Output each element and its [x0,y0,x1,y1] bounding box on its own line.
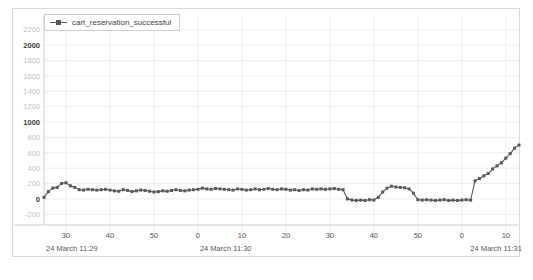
series-data-point [403,186,406,189]
series-data-point [311,187,314,190]
series-data-point [78,188,81,191]
series-data-point [100,188,103,191]
series-data-point [456,199,459,202]
series-data-point [245,189,248,192]
x-axis-tick-label: 30 [62,231,70,240]
series-data-point [170,189,173,192]
series-data-point [126,189,129,192]
series-data-point [425,198,428,201]
series-data-point [196,188,199,191]
series-data-point [372,199,375,202]
series-data-point [465,198,468,201]
series-data-point [390,185,393,188]
series-data-point [183,189,186,192]
series-data-point [262,188,265,191]
series-data-point [249,188,252,191]
series-data-point [267,187,270,190]
x-axis-period-label: 24 March 11:29 [46,244,98,253]
ytick-label-layer: 2200200018001600140012001000800600400200… [23,25,40,219]
series-data-point [355,199,358,202]
y-axis-tick-label: 400 [27,164,40,173]
series-data-point [214,187,217,190]
series-data-point [276,188,279,191]
y-axis-tick-label: 200 [27,179,40,188]
series-data-point [188,189,191,192]
series-data-point [69,184,72,187]
period-label-layer: 24 March 11:2924 March 11:3024 March 11:… [46,244,522,253]
x-axis-period-label: 24 March 11:30 [200,244,252,253]
series-data-point [394,186,397,189]
series-data-point [333,187,336,190]
series-data-point [82,189,85,192]
series-data-point [91,188,94,191]
x-axis-period-label: 24 March 11:31 [470,244,522,253]
series-data-point [381,191,384,194]
x-axis-tick-label: 10 [238,231,246,240]
chart-canvas: 2200200018001600140012001000800600400200… [0,0,533,280]
y-axis-tick-label: 2200 [23,25,40,34]
series-data-point [298,189,301,192]
series-data-point [258,188,261,191]
series-data-point [210,188,213,191]
series-data-point [399,186,402,189]
series-data-point [430,199,433,202]
series-data-point [443,198,446,201]
x-axis-tick-label: 50 [150,231,158,240]
x-axis-tick-label: 0 [196,231,200,240]
axis-layer [14,16,518,225]
series-data-point [148,190,151,193]
series-data-point [513,147,516,150]
series-data-point [113,189,116,192]
y-axis-tick-label: 800 [27,133,40,142]
series-data-point [408,187,411,190]
y-axis-tick-label: 1200 [23,102,40,111]
series-data-point [232,189,235,192]
legend-series-label: cart_reservation_successful [72,19,171,27]
chart-container: 2200200018001600140012001000800600400200… [0,0,533,280]
series-data-point [108,189,111,192]
chart-legend[interactable]: cart_reservation_successful [44,14,180,31]
xtick-label-layer: 30405001020304050010 [62,231,510,240]
series-data-point [271,188,274,191]
series-data-point [236,187,239,190]
series-data-point [201,187,204,190]
series-data-point [302,188,305,191]
series-data-point [346,197,349,200]
series-data-point [192,188,195,191]
y-axis-tick-label: 1000 [23,118,40,127]
x-axis-tick-label: 0 [460,231,464,240]
series-data-point [320,187,323,190]
series-data-point [152,191,155,194]
y-axis-tick-label: 1400 [23,87,40,96]
series-data-point [500,161,503,164]
series-data-point [337,188,340,191]
series-data-point [135,189,138,192]
series-data-point [324,188,327,191]
series-data-point [157,190,160,193]
series-data-point [377,196,380,199]
series-data-point [254,187,257,190]
series-data-point [122,188,125,191]
series-data-point [104,188,107,191]
series-data-point [293,188,296,191]
series-data-point [280,187,283,190]
series-data-point [95,189,98,192]
series-data-point [416,198,419,201]
series-data-point [144,189,147,192]
series-data-point [130,190,133,193]
series-data-point [86,188,89,191]
legend-series-marker-icon [50,18,67,27]
series-data-point [64,181,67,184]
series-data-point [161,189,164,192]
series-data-point [478,177,481,180]
series-data-point [43,196,46,199]
series-data-point [386,187,389,190]
x-axis-tick-label: 30 [326,231,334,240]
series-data-point [491,167,494,170]
y-axis-tick-label: 2000 [23,41,40,50]
series-data-point [240,188,243,191]
series-data-point [474,179,477,182]
series-data-point [518,144,521,147]
series-data-point [452,199,455,202]
series-data-point [117,190,120,193]
